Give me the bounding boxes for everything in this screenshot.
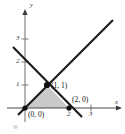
x-axis-arrow-icon [116,105,122,110]
y-axis-arrow-icon [22,9,27,15]
plot-svg [0,0,125,134]
y-axis-label: y [30,2,33,9]
point-label-origin: (0, 0) [28,111,44,119]
y-tick-label-2: 2 [16,58,20,65]
point-label-intersection: (1, 1) [51,82,67,90]
y-tick-label-3: 3 [16,35,20,42]
y-tick-label-1: 1 [16,81,20,88]
scan-artifact [13,125,18,129]
x-axis-label: x [115,99,118,106]
point-marker-origin [22,105,27,110]
x-tick-label-3: 3 [89,111,93,118]
figure-canvas: y x 1 2 3 2 3 (0, 0) (1, 1) (2, 0) [0,0,125,134]
point-label-x-intercept: (2, 0) [72,96,88,104]
point-marker-intersection [44,82,50,88]
x-tick-label-2: 2 [67,111,71,118]
